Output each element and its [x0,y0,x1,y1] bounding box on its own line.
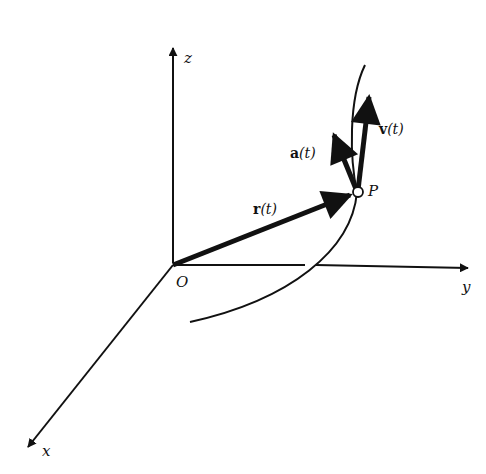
position-vector-label: r(t) [253,201,277,217]
velocity-vector [358,97,369,190]
origin-label: O [176,273,188,291]
z-axis-label: z [183,49,192,67]
space-curve [190,65,365,322]
y-axis-label: y [461,278,471,296]
acceleration-vector-label: a(t) [290,145,316,161]
velocity-vector-label: v(t) [378,121,404,137]
point-p-label: P [367,182,379,200]
x-axis-label: x [42,442,51,460]
vector-diagram: z y x O P r(t) v(t) a(t) [0,0,486,474]
y-axis [173,265,468,268]
point-p-marker [353,187,363,197]
x-axis [28,265,173,447]
